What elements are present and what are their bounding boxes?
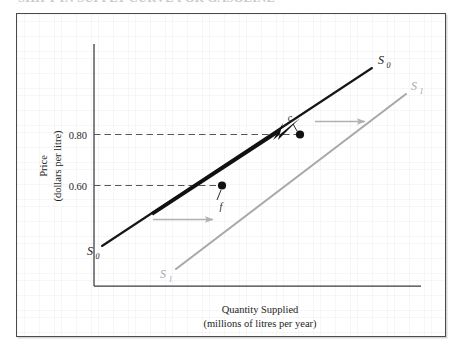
leader-c	[293, 124, 297, 131]
figure-container: SHIFT IN SUPPLY CURVE FOR GASOLINE	[0, 0, 462, 351]
point-label-f: f	[220, 201, 224, 212]
point-label-c: c	[288, 112, 293, 123]
curve-label-s0-lower: S 0	[87, 244, 100, 261]
x-axis-title: Quantity Supplied (millions of litres pe…	[203, 304, 317, 330]
data-point-c	[296, 130, 304, 138]
curve-label-s1-lower-letter: S	[160, 267, 166, 281]
curve-label-s1-lower-subscript: 1	[169, 275, 173, 284]
y-tick-label-080: 0.80	[69, 130, 87, 141]
curve-label-s1-lower: S 1	[160, 267, 173, 284]
chart-canvas: 0.80 0.60 Price (dollars per litre) Quan…	[17, 14, 447, 338]
data-point-f	[218, 181, 226, 189]
figure-caption: SHIFT IN SUPPLY CURVE FOR GASOLINE	[18, 0, 275, 6]
y-tick-label-060: 0.60	[69, 181, 87, 192]
y-axis-title-line1: Price	[38, 155, 49, 177]
y-tick-labels: 0.80 0.60	[69, 130, 87, 192]
curve-label-s0-upper-subscript: 0	[387, 61, 391, 70]
figure-caption-strip: SHIFT IN SUPPLY CURVE FOR GASOLINE	[0, 0, 462, 9]
chart-plate: 0.80 0.60 Price (dollars per litre) Quan…	[16, 13, 446, 337]
curve-label-s0-lower-subscript: 0	[96, 252, 100, 261]
curve-label-s1-upper: S 1	[411, 79, 424, 96]
curve-label-s0-upper: S 0	[378, 53, 391, 70]
leader-f	[217, 190, 221, 200]
x-axis-title-line2: (millions of litres per year)	[203, 318, 317, 330]
curve-label-s1-upper-subscript: 1	[420, 87, 424, 96]
curve-label-s1-upper-letter: S	[411, 79, 417, 93]
price-guide-lines	[94, 135, 300, 186]
movement-along-curve-arrow	[152, 118, 300, 214]
curve-label-s0-upper-letter: S	[378, 53, 384, 67]
axes	[94, 44, 421, 286]
x-axis-title-line1: Quantity Supplied	[222, 304, 299, 315]
y-axis-title-line2: (dollars per litre)	[52, 130, 64, 202]
y-axis-title: Price (dollars per litre)	[38, 130, 64, 202]
curve-label-s0-lower-letter: S	[87, 244, 93, 258]
